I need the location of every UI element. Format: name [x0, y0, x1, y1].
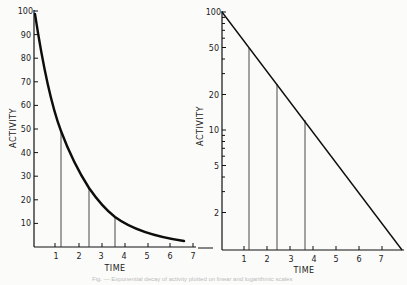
left-y-tick-labels: 10 20 30 40 50 60 70 80 90 100	[18, 7, 33, 228]
left-decay-curve	[35, 14, 184, 241]
right-chart: 100 50 20 10 5 2 1 2 3 4 5 6 7 TIME ACTI…	[196, 8, 404, 275]
left-chart: 10 20 30 40 50 60 70 80 90 100 1 2 3 4 5	[9, 7, 196, 273]
svg-text:6: 6	[167, 252, 172, 261]
svg-text:20: 20	[21, 196, 31, 205]
svg-text:40: 40	[21, 149, 31, 158]
right-y-tick-labels: 100 50 20 10 5 2	[206, 8, 221, 218]
right-x-axis-title: TIME	[292, 266, 314, 275]
svg-text:6: 6	[356, 255, 361, 264]
figure-caption: Fig. — Exponential decay of activity plo…	[92, 276, 292, 282]
svg-text:5: 5	[333, 255, 338, 264]
svg-text:2: 2	[214, 209, 219, 218]
right-x-tick-labels: 1 2 3 4 5 6 7	[241, 255, 383, 264]
right-half-life-markers	[249, 48, 305, 250]
svg-text:5: 5	[144, 252, 149, 261]
svg-text:100: 100	[18, 7, 33, 16]
svg-text:10: 10	[21, 219, 31, 228]
svg-text:3: 3	[98, 252, 103, 261]
svg-text:2: 2	[76, 252, 81, 261]
svg-text:20: 20	[209, 91, 219, 100]
svg-text:1: 1	[241, 255, 246, 264]
svg-text:50: 50	[209, 44, 219, 53]
svg-text:2: 2	[264, 255, 269, 264]
left-x-axis-title: TIME	[103, 264, 125, 273]
svg-text:4: 4	[311, 255, 316, 264]
svg-text:70: 70	[21, 78, 31, 87]
left-x-tick-labels: 1 2 3 4 5 6 7	[53, 252, 195, 261]
svg-text:5: 5	[214, 162, 219, 171]
svg-text:7: 7	[378, 255, 383, 264]
svg-text:10: 10	[209, 126, 219, 135]
svg-text:80: 80	[21, 54, 31, 63]
svg-text:1: 1	[53, 252, 58, 261]
svg-text:3: 3	[288, 255, 293, 264]
svg-text:30: 30	[21, 172, 31, 181]
svg-text:4: 4	[121, 252, 126, 261]
svg-text:60: 60	[21, 101, 31, 110]
right-y-axis-title: ACTIVITY	[196, 106, 205, 146]
svg-text:50: 50	[21, 125, 31, 134]
svg-text:90: 90	[21, 31, 31, 40]
right-y-ticks	[222, 12, 226, 213]
svg-text:7: 7	[190, 252, 195, 261]
svg-text:100: 100	[206, 8, 221, 17]
left-y-axis-title: ACTIVITY	[9, 108, 18, 148]
